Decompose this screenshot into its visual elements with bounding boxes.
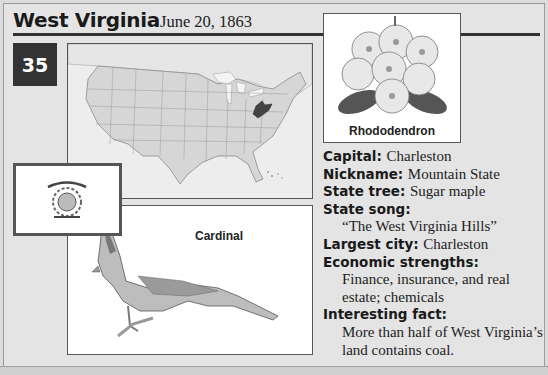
- statehood-date: June 20, 1863: [160, 12, 252, 32]
- capital-label: Capital:: [323, 148, 382, 164]
- largest-city-value: Charleston: [423, 236, 488, 252]
- bottom-border: [0, 366, 548, 375]
- interesting-fact-label: Interesting fact:: [323, 306, 447, 322]
- fact-song: State song:: [323, 201, 543, 219]
- nickname-label: Nickname:: [323, 166, 403, 182]
- economy-line-1: Finance, insurance, and real: [323, 271, 543, 289]
- fact-interesting: Interesting fact:: [323, 306, 543, 324]
- fact-nickname: Nickname: Mountain State: [323, 166, 543, 184]
- song-value: “The West Virginia Hills”: [323, 218, 543, 236]
- header-rule-right: [460, 33, 540, 36]
- state-flag-image: [13, 163, 122, 236]
- fact-capital: Capital: Charleston: [323, 148, 543, 166]
- state-flower-image: Rhododendron: [323, 13, 461, 143]
- tree-label: State tree:: [323, 183, 405, 199]
- bird-label: Cardinal: [195, 229, 243, 243]
- flag-seal-icon: [16, 166, 119, 233]
- largest-city-label: Largest city:: [323, 236, 419, 252]
- fact-largest-city: Largest city: Charleston: [323, 236, 543, 254]
- interesting-fact-line-2: land contains coal.: [323, 342, 543, 360]
- header-rule-left: [13, 33, 323, 36]
- tree-value: Sugar maple: [410, 183, 485, 199]
- fact-tree: State tree: Sugar maple: [323, 183, 543, 201]
- capital-value: Charleston: [387, 148, 452, 164]
- state-facts: Capital: Charleston Nickname: Mountain S…: [323, 148, 543, 359]
- state-name: West Virginia: [13, 8, 160, 32]
- state-number-badge: 35: [13, 43, 57, 86]
- interesting-fact-line-1: More than half of West Virginia’s: [323, 324, 543, 342]
- nickname-value: Mountain State: [408, 166, 500, 182]
- flower-label: Rhododendron: [324, 124, 460, 138]
- fact-economy: Economic strengths:: [323, 254, 543, 272]
- song-label: State song:: [323, 201, 411, 217]
- economy-line-2: estate; chemicals: [323, 289, 543, 307]
- economy-label: Economic strengths:: [323, 254, 479, 270]
- rhododendron-illustration: [324, 14, 460, 122]
